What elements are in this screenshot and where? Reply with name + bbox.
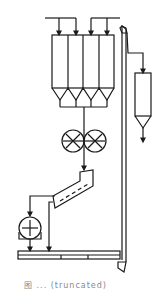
motor (19, 217, 41, 251)
transfer-line (127, 33, 145, 73)
belt-conveyor (18, 251, 120, 259)
inclined-feeder (53, 170, 93, 208)
arrow-icon (82, 166, 86, 170)
feed-header (45, 18, 120, 35)
figure-caption: 图 ... (truncated) (24, 279, 164, 290)
feed-lines (28, 196, 55, 251)
receiving-bin (135, 73, 151, 142)
bucket-elevator (118, 26, 127, 272)
silos (52, 35, 114, 107)
